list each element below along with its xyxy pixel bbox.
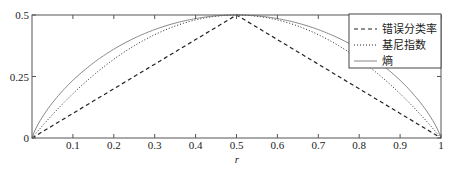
x-tick-labels: 0.10.20.30.40.50.60.70.80.91: [66, 139, 444, 151]
y-tick-label: 0.25: [10, 71, 30, 83]
x-tick-label: 0.5: [230, 139, 244, 151]
x-tick-label: 0.4: [189, 139, 203, 151]
y-tick-label: 0: [24, 132, 30, 144]
y-tick-label: 0.5: [15, 9, 29, 21]
x-tick-label: 1: [438, 139, 444, 151]
y-tick-labels: 00.250.5: [10, 9, 30, 144]
legend: 错误分类率 基尼指数 熵: [349, 14, 441, 68]
x-tick-label: 0.1: [66, 139, 80, 151]
legend-label-entropy: 熵: [382, 54, 393, 68]
legend-label-gini: 基尼指数: [382, 38, 426, 52]
x-tick-label: 0.6: [271, 139, 285, 151]
x-tick-label: 0.8: [352, 139, 366, 151]
legend-label-misclassification: 错误分类率: [382, 22, 437, 36]
impurity-chart: 0.10.20.30.40.50.60.70.80.91 00.250.5 r …: [0, 0, 453, 170]
x-tick-label: 0.2: [107, 139, 121, 151]
x-tick-label: 0.7: [311, 139, 325, 151]
x-axis-label: r: [235, 153, 240, 165]
x-tick-label: 0.9: [393, 139, 407, 151]
x-tick-label: 0.3: [148, 139, 162, 151]
